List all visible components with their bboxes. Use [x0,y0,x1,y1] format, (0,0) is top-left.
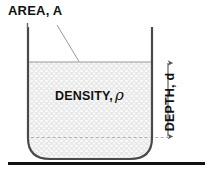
density-label: DENSITY,ρ [55,88,124,104]
fluid-column-diagram [0,0,216,173]
depth-label: DEPTH, d [155,0,169,67]
density-label-text: DENSITY, [55,89,113,103]
rho-symbol: ρ [113,86,124,104]
depth-label-text: DEPTH, d [163,67,177,137]
liquid-fill [27,62,153,161]
liquid-body [27,62,153,161]
area-leader-line [57,25,79,62]
area-label: AREA, A [8,3,62,18]
